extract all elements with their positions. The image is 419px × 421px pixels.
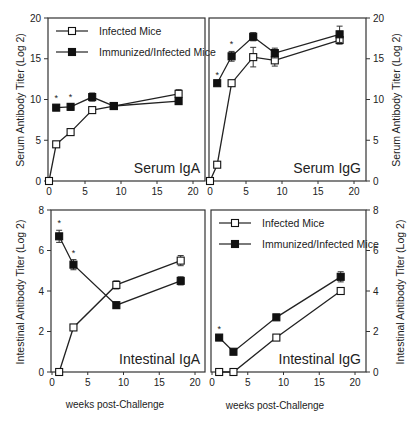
significance-asterisk: *	[217, 324, 221, 334]
open-square-marker	[207, 178, 214, 185]
open-square-marker	[67, 129, 74, 136]
filled-square-marker	[175, 98, 182, 105]
legend-label-immunized: Immunized/Infected Mice	[262, 238, 379, 250]
immunized-series-line	[59, 236, 181, 305]
open-square-marker	[250, 54, 257, 61]
left-y-label-bottom: Intestinal Antibody Titer (Log 2)	[14, 220, 26, 365]
y-tick-label: 8	[38, 205, 44, 216]
y-tick-label: 5	[35, 135, 41, 146]
filled-square-marker	[177, 277, 184, 284]
filled-square-marker	[337, 273, 344, 280]
open-square-marker	[177, 257, 184, 264]
legend-label-infected: Infected Mice	[262, 217, 325, 229]
open-square-marker	[228, 80, 235, 87]
figure: 0510152005101520Serum IgA**Infected Mice…	[0, 0, 419, 421]
x-tick-label: 5	[82, 186, 88, 197]
x-tick-label: 10	[278, 377, 290, 388]
x-tick-label: 0	[49, 377, 55, 388]
y-tick-label: 5	[373, 135, 379, 146]
significance-asterisk: *	[54, 93, 58, 103]
open-square-marker	[56, 369, 63, 376]
right-y-label-bottom: Intestinal Antibody Titer (Log 2)	[394, 220, 406, 365]
panel-intestinal-iga: 0510152002468Intestinal IgA**	[38, 205, 205, 389]
y-tick-label: 20	[373, 13, 385, 24]
plot-frame	[51, 210, 205, 372]
legend-open-square-icon	[69, 28, 76, 35]
y-tick-label: 6	[38, 245, 44, 256]
panel-title: Intestinal IgG	[279, 351, 362, 367]
panel-serum-iga: 0510152005101520Serum IgA**Infected Mice…	[30, 13, 216, 198]
legend-label-infected: Infected Mice	[99, 25, 162, 37]
significance-asterisk: *	[72, 248, 76, 258]
x-tick-label: 5	[243, 186, 249, 197]
open-square-marker	[175, 90, 182, 97]
x-tick-label: 15	[154, 377, 166, 388]
y-tick-label: 4	[373, 286, 379, 297]
y-tick-label: 8	[373, 205, 379, 216]
filled-square-marker	[113, 302, 120, 309]
x-tick-label: 10	[276, 186, 288, 197]
legend: Infected MiceImmunized/Infected Mice	[219, 217, 379, 250]
filled-square-marker	[273, 314, 280, 321]
filled-square-marker	[53, 104, 60, 111]
x-tick-label: 20	[348, 186, 360, 197]
filled-square-marker	[89, 94, 96, 101]
legend-label-immunized: Immunized/Infected Mice	[99, 46, 216, 58]
panel-serum-igg: 0510152005101520Serum IgG**	[207, 13, 385, 198]
x-label-right: weeks post-Challenge	[225, 400, 325, 411]
legend-filled-square-icon	[232, 241, 239, 248]
left-y-label-top: Serum Antibody Titer (Log 2)	[14, 33, 26, 167]
filled-square-marker	[67, 103, 74, 110]
panel-title: Intestinal IgA	[119, 351, 201, 367]
x-tick-label: 15	[151, 186, 163, 197]
y-tick-label: 0	[35, 176, 41, 187]
y-tick-label: 2	[38, 326, 44, 337]
open-square-marker	[273, 334, 280, 341]
x-tick-label: 0	[46, 186, 52, 197]
legend: Infected MiceImmunized/Infected Mice	[56, 25, 216, 58]
open-square-marker	[113, 281, 120, 288]
x-tick-label: 5	[85, 377, 91, 388]
open-square-marker	[46, 178, 53, 185]
y-tick-label: 15	[373, 53, 385, 64]
y-tick-label: 20	[30, 13, 42, 24]
legend-open-square-icon	[232, 220, 239, 227]
open-square-marker	[216, 369, 223, 376]
x-tick-label: 5	[245, 377, 251, 388]
y-tick-label: 2	[373, 326, 379, 337]
right-y-label-top: Serum Antibody Titer (Log 2)	[390, 33, 402, 167]
y-tick-label: 0	[373, 367, 379, 378]
significance-asterisk: *	[57, 218, 61, 228]
x-tick-label: 0	[207, 186, 213, 197]
filled-square-marker	[230, 348, 237, 355]
y-tick-label: 0	[373, 176, 379, 187]
x-tick-label: 10	[115, 186, 127, 197]
y-tick-label: 0	[38, 367, 44, 378]
x-tick-label: 10	[118, 377, 130, 388]
y-tick-label: 10	[373, 94, 385, 105]
filled-square-marker	[336, 31, 343, 38]
panel-title: Serum IgG	[293, 160, 361, 176]
filled-square-marker	[271, 50, 278, 57]
x-tick-label: 20	[187, 186, 199, 197]
significance-asterisk: *	[230, 39, 234, 49]
filled-square-marker	[70, 261, 77, 268]
significance-asterisk: *	[69, 92, 73, 102]
filled-square-marker	[216, 334, 223, 341]
panel-intestinal-igg: 0510152002468Intestinal IgG*Infected Mic…	[209, 205, 379, 389]
open-square-marker	[337, 288, 344, 295]
open-square-marker	[70, 324, 77, 331]
filled-square-marker	[228, 53, 235, 60]
filled-square-marker	[110, 103, 117, 110]
x-tick-label: 0	[209, 377, 215, 388]
panel-title: Serum IgA	[134, 160, 201, 176]
y-tick-label: 15	[30, 53, 42, 64]
y-tick-label: 4	[38, 286, 44, 297]
y-tick-label: 10	[30, 94, 42, 105]
legend-filled-square-icon	[69, 49, 76, 56]
filled-square-marker	[250, 33, 257, 40]
open-square-marker	[89, 107, 96, 114]
x-tick-label: 15	[314, 377, 326, 388]
x-tick-label: 20	[349, 377, 361, 388]
significance-asterisk: *	[215, 70, 219, 80]
